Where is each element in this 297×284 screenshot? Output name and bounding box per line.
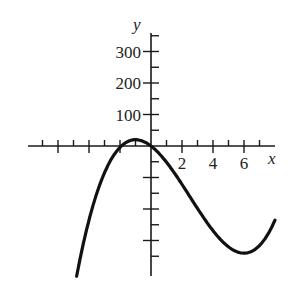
tick-labels: 246100200300: [116, 43, 249, 174]
y-tick-label: 200: [116, 74, 142, 93]
y-tick-label: 100: [116, 106, 142, 125]
x-tick-label: 4: [209, 154, 218, 173]
x-tick-label: 2: [178, 154, 187, 173]
y-axis-label: y: [131, 15, 141, 34]
axes: [28, 33, 275, 276]
y-tick-label: 300: [116, 43, 142, 62]
cubic-graph: 246100200300 x y: [0, 0, 297, 284]
x-tick-label: 6: [240, 154, 249, 173]
x-axis-label: x: [267, 149, 276, 168]
